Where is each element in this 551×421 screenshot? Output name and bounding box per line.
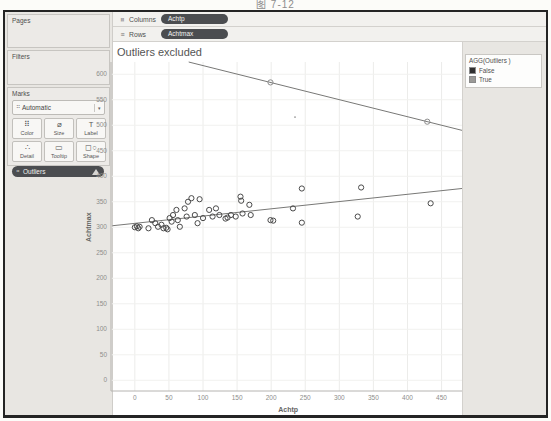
pages-label: Pages [8, 15, 109, 24]
legend-title: AGG(Outliers ) [469, 57, 538, 64]
x-tick-label: 250 [300, 394, 311, 401]
tableau-window: Pages Filters Marks ⠛ Automatic ▾ ⠿Color… [3, 10, 548, 418]
tooltip-button[interactable]: ▭Tooltip [44, 141, 74, 162]
rows-shelf[interactable]: ≡ Rows Achtmax [113, 27, 546, 42]
tooltip-icon: ▭ [55, 144, 63, 152]
data-point-false[interactable] [174, 207, 179, 212]
mark-type-icon: ⠛ [13, 104, 22, 111]
columns-pill[interactable]: Achtp [161, 14, 228, 24]
legend-items: FalseTrue [469, 67, 538, 83]
data-point-false[interactable] [195, 221, 200, 226]
x-tick-label: 150 [232, 394, 243, 401]
small-mark [294, 116, 296, 118]
figure-caption: 图 7-12 [0, 0, 551, 9]
y-tick-label: 150 [96, 300, 107, 307]
size-button-label: Size [54, 130, 65, 136]
data-point-false[interactable] [177, 224, 182, 229]
y-tick-label: 450 [96, 147, 107, 154]
x-axis-title: Achtp [278, 406, 298, 414]
detail-icon: ∴ [25, 144, 30, 152]
legend-swatch [469, 76, 476, 83]
columns-icon: ≡ [119, 15, 126, 24]
color-button[interactable]: ⠿Color [12, 118, 42, 139]
x-tick-label: 200 [266, 394, 277, 401]
data-point-false[interactable] [213, 206, 218, 211]
data-point-false[interactable] [355, 214, 360, 219]
size-icon: ⌀ [57, 121, 62, 129]
y-tick-label: 350 [96, 198, 107, 205]
legend-card: AGG(Outliers ) FalseTrue [465, 54, 542, 88]
data-point-false[interactable] [248, 212, 253, 217]
color-icon: ⠿ [24, 121, 30, 129]
data-point-false[interactable] [359, 185, 364, 190]
color-button-label: Color [20, 130, 33, 136]
tooltip-button-label: Tooltip [51, 153, 67, 159]
y-tick-label: 50 [100, 351, 108, 358]
rows-icon: ≡ [118, 31, 127, 38]
x-tick-label: 450 [436, 394, 447, 401]
x-tick-label: 300 [334, 394, 345, 401]
y-tick-label: 600 [96, 70, 107, 77]
y-tick-label: 200 [96, 274, 107, 281]
x-tick-label: 0 [133, 394, 137, 401]
y-axis-title: Achtmax [85, 212, 92, 242]
y-tick-label: 400 [96, 172, 107, 179]
y-tick-label: 300 [96, 223, 107, 230]
pill-grid-icon: ⠛ [16, 169, 20, 175]
legend-item-true[interactable]: True [469, 76, 538, 83]
scatter-plot[interactable]: 0501001502002503003504004505005506000501… [83, 41, 465, 416]
columns-shelf[interactable]: ≡ Columns Achtp [113, 12, 546, 27]
x-tick-label: 400 [402, 394, 413, 401]
data-point-false[interactable] [299, 220, 304, 225]
size-button[interactable]: ⌀Size [44, 118, 74, 139]
trend-line-false [112, 188, 462, 225]
y-tick-label: 250 [96, 249, 107, 256]
detail-button-label: Detail [20, 153, 34, 159]
data-point-false[interactable] [170, 212, 175, 217]
data-point-false[interactable] [247, 202, 252, 207]
y-tick-label: 500 [96, 121, 107, 128]
columns-label: Columns [129, 16, 161, 23]
x-tick-label: 350 [368, 394, 379, 401]
data-point-false[interactable] [207, 207, 212, 212]
x-tick-label: 50 [165, 394, 173, 401]
y-tick-label: 550 [96, 96, 107, 103]
data-point-false[interactable] [146, 226, 151, 231]
rows-pill[interactable]: Achtmax [161, 29, 228, 39]
data-point-false[interactable] [197, 197, 202, 202]
trend-line-true [189, 62, 462, 130]
outliers-pill-label: Outliers [23, 168, 92, 175]
legend-panel: AGG(Outliers ) FalseTrue [462, 42, 546, 415]
data-point-false[interactable] [189, 196, 194, 201]
x-tick-label: 100 [198, 394, 209, 401]
data-point-false[interactable] [299, 186, 304, 191]
legend-swatch [469, 67, 476, 74]
y-tick-label: 100 [96, 325, 107, 332]
y-tick-label: 0 [103, 376, 107, 383]
detail-button[interactable]: ∴Detail [12, 141, 42, 162]
data-point-false[interactable] [184, 214, 189, 219]
legend-item-label: True [479, 76, 492, 83]
legend-item-false[interactable]: False [469, 67, 538, 74]
legend-item-label: False [479, 67, 494, 74]
data-point-false[interactable] [182, 206, 187, 211]
shelf-area: ≡ Columns Achtp ≡ Rows Achtmax [113, 12, 546, 42]
rows-label: Rows [129, 31, 161, 38]
